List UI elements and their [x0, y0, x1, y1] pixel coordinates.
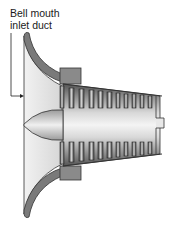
flange-bottom	[60, 166, 81, 180]
leader-line	[11, 33, 22, 96]
arrow-head-icon	[20, 94, 24, 98]
engine-inlet-diagram	[0, 0, 181, 227]
flange-top	[60, 68, 81, 84]
